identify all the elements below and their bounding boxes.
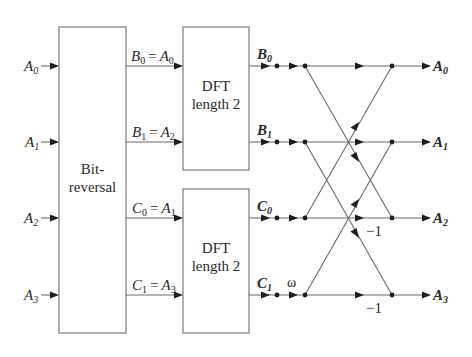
fft-flow-diagram: Bit- reversal DFT length 2 DFT length 2 … — [0, 0, 472, 357]
arrow-icon — [355, 215, 364, 222]
arrow-icon — [174, 63, 183, 70]
node-dot — [275, 140, 280, 145]
arrow-icon — [289, 215, 298, 222]
dft-top-label-line1: DFT — [202, 78, 230, 94]
dft-output-lines — [249, 63, 305, 299]
butterfly: −1 −1 — [303, 63, 431, 317]
arrow-icon — [355, 292, 364, 299]
node-dot — [390, 64, 395, 69]
arrow-icon — [351, 199, 360, 208]
output-labels: A0 A1 A2 A3 — [432, 58, 448, 305]
dft-output-label-2: C0 — [257, 198, 272, 216]
arrow-icon — [289, 292, 298, 299]
arrow-icon — [289, 139, 298, 146]
dft-output-labels: B0 B1 C0 C1 ω — [256, 46, 296, 293]
mapping-labels: B0=A0 B1=A2 C0=A1 C1=A3 — [131, 48, 176, 295]
mapping-label-1: B1=A2 — [132, 124, 175, 142]
arrow-icon — [351, 228, 360, 238]
input-labels: A0 A1 A2 A3 — [23, 58, 39, 305]
arrow-icon — [355, 139, 364, 146]
node-dot — [303, 216, 308, 221]
dft-bottom-label-line1: DFT — [202, 240, 230, 256]
node-dot — [303, 64, 308, 69]
dft-bottom-label-line2: length 2 — [192, 258, 241, 274]
node-dot — [303, 293, 308, 298]
input-label-2: A2 — [23, 210, 38, 228]
dft-top-label-line2: length 2 — [192, 96, 241, 112]
mapping-connections — [126, 63, 183, 299]
twiddle-omega-label: ω — [287, 275, 296, 290]
minus-one-label-1: −1 — [366, 300, 382, 316]
bit-reversal-label-line2: reversal — [69, 179, 116, 195]
arrow-icon — [355, 63, 364, 70]
dft-output-label-3: C1 — [257, 275, 272, 293]
arrow-icon — [351, 122, 360, 131]
output-label-3: A3 — [432, 287, 448, 305]
mapping-label-3: C1=A3 — [132, 277, 176, 295]
node-dot — [390, 216, 395, 221]
arrow-icon — [50, 215, 59, 222]
node-dot — [275, 293, 280, 298]
input-label-3: A3 — [23, 287, 38, 305]
mapping-label-2: C0=A1 — [132, 200, 176, 218]
node-dot — [275, 64, 280, 69]
node-dot — [275, 216, 280, 221]
arrow-icon — [50, 63, 59, 70]
input-label-1: A1 — [24, 134, 39, 152]
arrow-icon — [50, 139, 59, 146]
arrow-icon — [422, 292, 431, 299]
dft-output-label-1: B1 — [256, 122, 272, 140]
output-label-1: A1 — [432, 134, 448, 152]
output-label-2: A2 — [432, 210, 448, 228]
input-arrows — [41, 63, 59, 299]
arrow-icon — [422, 63, 431, 70]
input-label-0: A0 — [23, 58, 38, 76]
arrow-icon — [422, 215, 431, 222]
node-dot — [303, 140, 308, 145]
output-label-0: A0 — [432, 58, 448, 76]
arrow-icon — [289, 63, 298, 70]
mapping-label-0: B0=A0 — [131, 48, 174, 66]
arrow-icon — [174, 139, 183, 146]
bit-reversal-label-line1: Bit- — [81, 161, 104, 177]
arrow-icon — [351, 152, 360, 162]
dft-output-label-0: B0 — [256, 46, 272, 64]
minus-one-label-0: −1 — [366, 223, 382, 239]
node-dot — [390, 293, 395, 298]
arrow-icon — [422, 139, 431, 146]
node-dot — [390, 140, 395, 145]
arrow-icon — [50, 292, 59, 299]
